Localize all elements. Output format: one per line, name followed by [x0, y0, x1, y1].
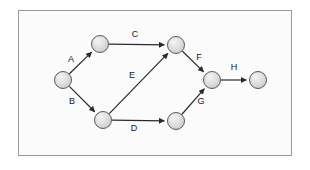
edge-e-label: E [129, 70, 135, 80]
diagram-canvas: ABCDEFGH [0, 0, 310, 170]
edge-h-label: H [231, 62, 238, 72]
merge-node[interactable] [204, 72, 221, 89]
end-node[interactable] [250, 72, 267, 89]
edge-c-label: C [132, 29, 139, 39]
edge-a-label: A [68, 54, 74, 64]
graph-svg: ABCDEFGH [0, 0, 310, 170]
lower-right-node[interactable] [168, 113, 185, 130]
node-layer [55, 36, 267, 130]
lower-left-node[interactable] [95, 112, 112, 129]
edge-d-label: D [131, 123, 138, 133]
edge-c [109, 44, 164, 45]
edge-d [112, 120, 164, 121]
edge-g-label: G [197, 96, 204, 106]
edge-f-label: F [196, 52, 202, 62]
edge-e [109, 53, 168, 113]
upper-right-node[interactable] [168, 37, 185, 54]
start-node[interactable] [55, 72, 72, 89]
upper-left-node[interactable] [92, 36, 109, 53]
edge-b-label: B [69, 96, 75, 106]
